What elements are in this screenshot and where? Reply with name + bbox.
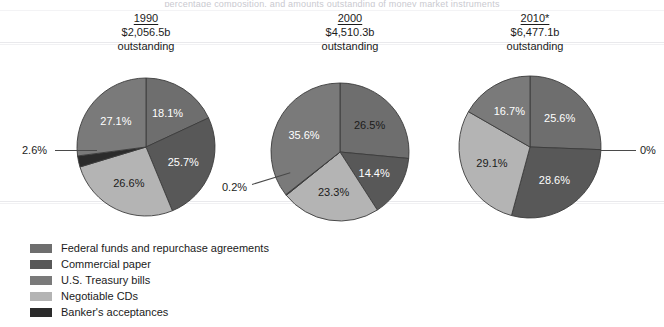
legend-label: Negotiable CDs xyxy=(61,290,138,302)
legend-label: Federal funds and repurchase agreements xyxy=(61,242,269,254)
legend-label: U.S. Treasury bills xyxy=(61,274,150,286)
legend-label: Banker's acceptances xyxy=(61,306,168,318)
legend-item-cds: Negotiable CDs xyxy=(30,288,269,304)
callout-leader-2010 xyxy=(600,150,636,151)
legend-item-fed_funds: Federal funds and repurchase agreements xyxy=(30,240,269,256)
legend-swatch-commercial_paper xyxy=(30,260,52,269)
legend-swatch-tbills xyxy=(30,276,52,285)
legend: Federal funds and repurchase agreementsC… xyxy=(30,240,269,320)
column-amount: $6,477.1b xyxy=(450,25,620,39)
pie-slice xyxy=(530,76,601,150)
column-outstanding: outstanding xyxy=(265,39,435,53)
legend-item-tbills: U.S. Treasury bills xyxy=(30,272,269,288)
legend-item-commercial_paper: Commercial paper xyxy=(30,256,269,272)
legend-label: Commercial paper xyxy=(61,258,151,270)
pie-chart-2010 xyxy=(455,72,605,222)
column-header-2000: 2000 $4,510.3b outstanding xyxy=(265,12,435,53)
figure-canvas: percentage composition, and amounts outs… xyxy=(0,0,664,327)
legend-swatch-fed_funds xyxy=(30,244,52,253)
column-amount: $2,056.5b xyxy=(61,25,231,39)
pie-svg xyxy=(455,72,605,222)
pie-slice xyxy=(340,83,409,158)
column-header-2010: 2010* $6,477.1b outstanding xyxy=(450,12,620,53)
pie-slice xyxy=(77,78,146,156)
column-year: 2010* xyxy=(450,12,620,25)
callout-label-1990: 2.6% xyxy=(22,144,47,156)
legend-swatch-acceptances xyxy=(30,308,52,317)
column-outstanding: outstanding xyxy=(61,39,231,53)
column-outstanding: outstanding xyxy=(450,39,620,53)
callout-label-2000: 0.2% xyxy=(222,181,247,193)
callout-leader-1990 xyxy=(55,150,97,151)
pie-chart-2000 xyxy=(267,79,413,225)
callout-label-2010: 0% xyxy=(640,144,656,156)
legend-item-acceptances: Banker's acceptances xyxy=(30,304,269,320)
cropped-title-sliver: percentage composition, and amounts outs… xyxy=(0,0,664,7)
scan-rule-top xyxy=(0,10,664,11)
pie-svg xyxy=(267,79,413,225)
column-year: 1990 xyxy=(61,12,231,25)
column-year: 2000 xyxy=(265,12,435,25)
pie-svg xyxy=(73,74,219,220)
column-amount: $4,510.3b xyxy=(265,25,435,39)
legend-swatch-cds xyxy=(30,292,52,301)
column-header-1990: 1990 $2,056.5b outstanding xyxy=(61,12,231,53)
pie-chart-1990 xyxy=(73,74,219,220)
